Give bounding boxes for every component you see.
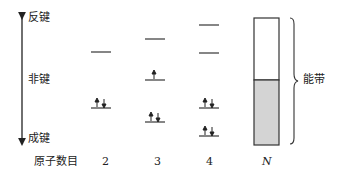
column-2-levels: [91, 52, 111, 108]
column-3-levels: [145, 39, 165, 122]
nonbonding-label: 非键: [28, 74, 50, 86]
atom-count-4: 4: [206, 156, 213, 168]
atom-count-2: 2: [102, 156, 109, 168]
antibonding-label: 反键: [28, 12, 50, 24]
atom-count-3: 3: [154, 156, 161, 168]
atom-count-n: N: [262, 156, 272, 168]
band-brace: [290, 18, 298, 144]
column-4-levels: [199, 25, 219, 136]
bonding-label: 成键: [28, 133, 50, 145]
band-filled: [254, 80, 279, 145]
band-label: 能带: [303, 74, 325, 86]
orbital-diagram: [0, 0, 338, 180]
band-empty: [254, 18, 279, 80]
atom-count-label: 原子数目: [34, 156, 78, 168]
